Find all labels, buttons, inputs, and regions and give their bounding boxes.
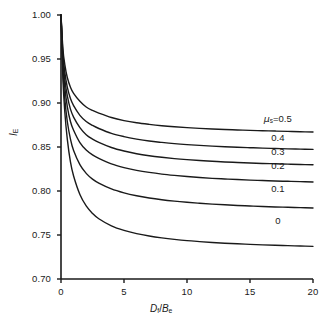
y-tick-label: 0.90 xyxy=(17,97,51,108)
y-axis-title-var: I xyxy=(8,133,19,136)
series-value: 0.2 xyxy=(271,160,284,171)
y-tick-label: 0.85 xyxy=(17,141,51,152)
x-axis-title-den: B xyxy=(162,303,169,314)
y-tick-label: 1.00 xyxy=(17,9,51,20)
x-tick-label: 0 xyxy=(48,286,74,297)
y-tick-label: 0.75 xyxy=(17,229,51,240)
x-tick-label: 10 xyxy=(174,286,200,297)
x-axis-title: Df/Be xyxy=(150,303,172,314)
chart-figure: IE Df/Be 0.700.750.800.850.900.951.00 05… xyxy=(0,0,333,327)
data-curve xyxy=(61,15,313,208)
x-axis-title-den-sub: e xyxy=(169,307,173,314)
y-tick-label: 0.95 xyxy=(17,53,51,64)
series-label-0-1: 0.1 xyxy=(271,183,284,194)
y-tick-label: 0.70 xyxy=(17,273,51,284)
series-label-0: 0 xyxy=(275,215,280,226)
data-curve xyxy=(61,15,313,149)
y-axis-title: IE xyxy=(8,129,19,136)
x-tick-label: 5 xyxy=(111,286,137,297)
series-label-0-2: 0.2 xyxy=(271,160,284,171)
y-axis-title-sub: E xyxy=(12,129,19,134)
data-curves xyxy=(61,15,313,246)
series-value: 0.4 xyxy=(271,132,284,143)
x-tick-label: 15 xyxy=(237,286,263,297)
series-value: 0.1 xyxy=(271,183,284,194)
series-label-0-5: μs=0.5 xyxy=(264,113,292,124)
data-curve xyxy=(61,15,313,182)
series-label-0-4: 0.4 xyxy=(271,132,284,143)
series-label-0-3: 0.3 xyxy=(271,146,284,157)
series-value: 0.3 xyxy=(271,146,284,157)
x-tick-label: 20 xyxy=(300,286,326,297)
series-value: 0.5 xyxy=(279,113,292,124)
y-tick-label: 0.80 xyxy=(17,185,51,196)
series-value: 0 xyxy=(275,215,280,226)
